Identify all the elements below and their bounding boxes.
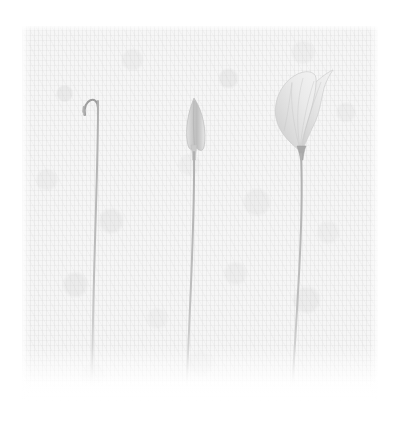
specimen-middle [187, 98, 205, 394]
paper-plate [22, 26, 378, 401]
specimen-right-stem [292, 154, 302, 394]
specimen-left-barb [83, 107, 84, 115]
specimen-middle-stem [187, 152, 195, 394]
specimen-right-blade-lobe [275, 72, 316, 152]
specimen-drawing [22, 26, 378, 401]
specimen-left-hook-icon [85, 100, 98, 115]
specimen-middle-capsule [187, 98, 205, 150]
specimen-left-stem [92, 101, 98, 394]
specimen-left [83, 100, 98, 394]
scanned-specimen-image: Left specimen — bare stalk with hooked t… [0, 0, 399, 430]
specimen-right [275, 70, 333, 394]
specimen-group [22, 26, 378, 401]
